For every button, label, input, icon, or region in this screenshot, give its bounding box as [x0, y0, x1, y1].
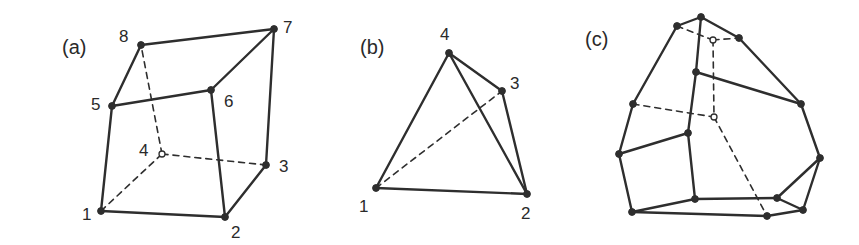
visible-edge: [211, 29, 274, 90]
panel-label: (c): [585, 28, 608, 50]
vertex-node: [774, 195, 781, 202]
panel-label: (b): [360, 36, 384, 58]
vertex-node: [798, 101, 805, 108]
visible-edge: [619, 154, 632, 212]
visible-edge: [633, 26, 677, 104]
vertex-node: [208, 87, 215, 94]
panel-a-hexahedron: (a)12345678: [62, 18, 292, 242]
vertex-label: 3: [279, 157, 288, 176]
vertex-node: [222, 214, 229, 221]
hidden-edge: [713, 38, 739, 40]
vertex-node: [698, 14, 705, 21]
vertex-node: [685, 130, 692, 137]
visible-edge: [688, 72, 696, 133]
vertex-node: [98, 208, 105, 215]
panel-c-polyhedron: (c): [585, 14, 823, 220]
vertex-node: [446, 50, 453, 57]
visible-edge: [449, 53, 502, 91]
vertex-label: 4: [440, 25, 449, 44]
visible-edge: [225, 165, 266, 217]
vertex-node: [764, 213, 771, 220]
visible-edge: [619, 104, 633, 154]
visible-edge: [801, 104, 820, 158]
visible-edge: [502, 91, 527, 194]
vertex-label: 5: [91, 95, 100, 114]
hidden-edge: [633, 104, 714, 117]
hidden-edge: [677, 26, 713, 40]
vertex-node: [674, 23, 681, 30]
vertex-node: [271, 26, 278, 33]
visible-edge: [376, 53, 449, 188]
vertex-node: [800, 207, 807, 214]
hidden-edge: [714, 117, 767, 216]
vertex-node: [817, 155, 824, 162]
visible-edge: [211, 90, 225, 217]
vertex-node: [629, 209, 636, 216]
vertex-label: 1: [82, 205, 91, 224]
hidden-vertex-node: [159, 151, 165, 157]
vertex-label: 7: [283, 18, 292, 37]
vertex-node: [692, 196, 699, 203]
vertex-node: [138, 42, 145, 49]
vertex-node: [263, 162, 270, 169]
vertex-label: 2: [521, 204, 530, 223]
panel-b-tetrahedron: (b)1234: [359, 25, 530, 223]
vertex-node: [616, 151, 623, 158]
visible-edge: [376, 188, 527, 194]
polyhedra-figure: (a)12345678 (b)1234 (c): [0, 0, 859, 245]
visible-edge: [688, 133, 695, 199]
vertex-node: [736, 35, 743, 42]
visible-edge: [141, 29, 274, 45]
vertex-label: 4: [139, 141, 148, 160]
hidden-edge: [101, 154, 162, 211]
visible-edge: [112, 45, 141, 106]
vertex-label: 1: [359, 197, 368, 216]
visible-edge: [777, 198, 803, 210]
visible-edge: [266, 29, 274, 165]
visible-edge: [632, 199, 695, 212]
visible-edge: [701, 17, 739, 38]
vertex-node: [693, 69, 700, 76]
vertex-label: 3: [510, 74, 519, 93]
visible-edge: [767, 210, 803, 216]
panel-label: (a): [62, 36, 86, 58]
vertex-node: [109, 103, 116, 110]
visible-edge: [696, 17, 701, 72]
visible-edge: [619, 133, 688, 154]
hidden-edge: [162, 154, 266, 165]
hidden-vertex-node: [711, 114, 717, 120]
vertex-node: [499, 88, 506, 95]
vertex-node: [373, 185, 380, 192]
hidden-vertex-node: [710, 37, 716, 43]
vertex-node: [524, 191, 531, 198]
vertex-node: [630, 101, 637, 108]
vertex-label: 8: [119, 27, 128, 46]
visible-edge: [101, 211, 225, 217]
visible-edge: [632, 212, 767, 216]
visible-edge: [695, 198, 777, 199]
visible-edge: [112, 90, 211, 106]
vertex-label: 2: [231, 223, 240, 242]
visible-edge: [101, 106, 112, 211]
hidden-edge: [376, 91, 502, 188]
vertex-label: 6: [224, 92, 233, 111]
